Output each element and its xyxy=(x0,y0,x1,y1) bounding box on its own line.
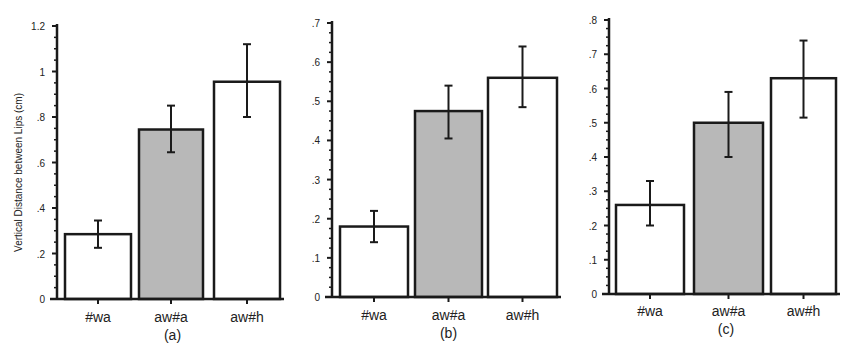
x-tick-label: aw#h xyxy=(787,303,820,319)
y-tick-label: .7 xyxy=(589,49,598,60)
y-tick-label: 0 xyxy=(314,292,320,303)
x-tick-label: aw#h xyxy=(506,307,539,323)
y-tick-label: .3 xyxy=(589,186,598,197)
bar-2 xyxy=(139,130,203,299)
figure: #waaw#aaw#h0.2.4.6.811.2Vertical Distanc… xyxy=(0,0,849,348)
y-tick-label: .8 xyxy=(589,15,598,26)
panel-label: (a) xyxy=(164,327,181,343)
y-tick-label: .1 xyxy=(589,255,598,266)
y-tick-label: .4 xyxy=(589,152,598,163)
panel-label: (c) xyxy=(718,321,734,337)
x-tick-label: #wa xyxy=(361,307,387,323)
y-tick-label: .7 xyxy=(312,18,321,29)
y-tick-label: .6 xyxy=(312,57,321,68)
y-tick-label: .5 xyxy=(312,96,321,107)
x-tick-label: #wa xyxy=(85,309,111,325)
x-tick-label: #wa xyxy=(637,303,663,319)
y-tick-label: .3 xyxy=(312,175,321,186)
y-tick-label: .5 xyxy=(589,118,598,129)
y-tick-label: 0 xyxy=(591,289,597,300)
y-tick-label: .1 xyxy=(312,253,321,264)
y-tick-label: 0 xyxy=(39,294,45,305)
y-tick-label: .8 xyxy=(37,112,46,123)
y-tick-label: 1.2 xyxy=(31,21,45,32)
x-tick-label: aw#h xyxy=(230,309,263,325)
y-tick-label: .4 xyxy=(312,135,321,146)
x-tick-label: aw#a xyxy=(432,307,466,323)
y-tick-label: .2 xyxy=(589,221,598,232)
x-tick-label: aw#a xyxy=(712,303,746,319)
y-tick-label: .2 xyxy=(37,249,46,260)
y-tick-label: .6 xyxy=(589,84,598,95)
bar-3 xyxy=(488,78,557,297)
panel-label: (b) xyxy=(440,325,457,341)
y-axis-label: Vertical Distance between Lips (cm) xyxy=(13,93,24,252)
y-tick-label: .2 xyxy=(312,214,321,225)
y-tick-label: .4 xyxy=(37,203,46,214)
x-tick-label: aw#a xyxy=(154,309,188,325)
y-tick-label: .6 xyxy=(37,158,46,169)
y-tick-label: 1 xyxy=(39,67,45,78)
bar-chart-figure: #waaw#aaw#h0.2.4.6.811.2Vertical Distanc… xyxy=(0,0,849,348)
